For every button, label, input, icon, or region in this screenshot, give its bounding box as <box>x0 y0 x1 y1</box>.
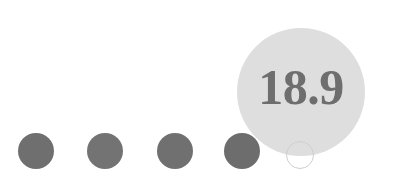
scale-dot-1 <box>18 133 54 169</box>
ghost-dot-outline <box>286 141 314 169</box>
highlighted-value-bubble: 18.9 <box>237 28 365 156</box>
scale-dot-3 <box>157 133 193 169</box>
value-label: 18.9 <box>237 62 365 112</box>
dot-plot-figure: 18.9 <box>0 0 400 182</box>
scale-dot-2 <box>87 133 123 169</box>
scale-dot-4 <box>224 133 260 169</box>
